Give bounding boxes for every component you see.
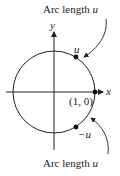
arrow-top xyxy=(84,19,106,57)
top-arc-label: Arc length u xyxy=(43,4,98,15)
bottom-arc-label: Arc length u xyxy=(43,158,98,169)
point-origin-1-0 xyxy=(93,90,98,95)
point-u-label: u xyxy=(74,44,80,55)
point-1-0-label: (1, 0) xyxy=(69,96,93,107)
arrow-bottom xyxy=(91,118,108,154)
y-axis-label: y xyxy=(50,20,55,31)
unit-circle-diagram: Arc length u y u x (1, 0) −u Arc length … xyxy=(0,0,120,176)
point-neg-u-label: −u xyxy=(78,129,91,140)
x-axis-label: x xyxy=(106,86,111,97)
diagram-graphics xyxy=(0,0,120,176)
point-u xyxy=(74,55,79,60)
